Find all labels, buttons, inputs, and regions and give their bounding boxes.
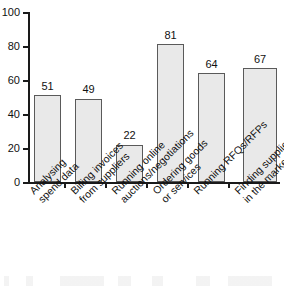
bar-value-label: 49 <box>75 84 102 95</box>
x-tick-5 <box>228 183 230 188</box>
y-tick-label-0: 0 <box>0 177 20 188</box>
bar-value-label: 64 <box>198 59 225 70</box>
y-tick-20 <box>23 148 29 150</box>
y-tick-label-80: 80 <box>0 41 20 52</box>
bar-chart: 0 20 40 60 80 100 51 49 22 81 64 67 Anal… <box>0 0 284 286</box>
bar-value-label: 67 <box>243 54 277 65</box>
y-tick-label-100: 100 <box>0 7 20 18</box>
y-tick-80 <box>23 46 29 48</box>
y-tick-100 <box>23 12 29 14</box>
bar-value-label: 81 <box>157 30 184 41</box>
bar-value-label: 22 <box>116 130 143 141</box>
page-scan-artifact <box>0 276 284 286</box>
bar-value-label: 51 <box>34 81 61 92</box>
y-tick-label-60: 60 <box>0 75 20 86</box>
y-tick-label-40: 40 <box>0 109 20 120</box>
y-axis-line <box>28 12 30 183</box>
y-tick-label-20: 20 <box>0 143 20 154</box>
y-tick-40 <box>23 114 29 116</box>
y-tick-0 <box>23 182 29 184</box>
y-tick-60 <box>23 80 29 82</box>
